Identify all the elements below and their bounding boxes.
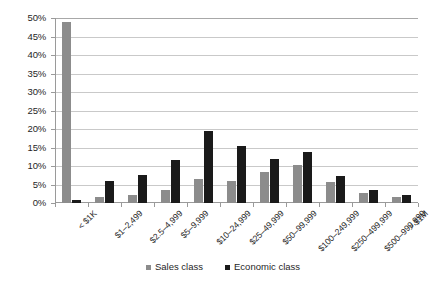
- legend-label: Economic class: [234, 262, 300, 272]
- x-tick-mark: [319, 203, 320, 207]
- chart-legend: Sales classEconomic class: [0, 262, 446, 272]
- x-tick-mark: [154, 203, 155, 207]
- x-tick-label: $50–99,999: [281, 209, 319, 247]
- x-tick-label: $25–49,999: [248, 209, 286, 247]
- x-tick-label: $2.5–4,999: [148, 209, 184, 245]
- x-tick-mark: [253, 203, 254, 207]
- legend-label: Sales class: [155, 262, 203, 272]
- x-tick-mark: [418, 203, 419, 207]
- legend-swatch-icon: [225, 265, 230, 270]
- legend-entry[interactable]: Economic class: [225, 262, 300, 272]
- x-tick-mark: [286, 203, 287, 207]
- bar-chart: 0%5%10%15%20%25%30%35%40%45%50% < $1K$1–…: [0, 0, 446, 287]
- legend-swatch-icon: [146, 265, 151, 270]
- legend-entry[interactable]: Sales class: [146, 262, 203, 272]
- x-tick-mark: [385, 203, 386, 207]
- x-tick-label: < $1K: [76, 209, 98, 231]
- x-tick-mark: [187, 203, 188, 207]
- x-axis: < $1K$1–2,499$2.5–4,999$5–9,999$10–24,99…: [0, 0, 446, 287]
- x-tick-mark: [352, 203, 353, 207]
- x-tick-mark: [121, 203, 122, 207]
- x-tick-label: $10–24,999: [215, 209, 253, 247]
- x-tick-label: $1–2,499: [113, 209, 144, 240]
- x-tick-mark: [55, 203, 56, 207]
- x-tick-mark: [220, 203, 221, 207]
- x-tick-label: > $1M: [406, 209, 429, 232]
- x-tick-mark: [88, 203, 89, 207]
